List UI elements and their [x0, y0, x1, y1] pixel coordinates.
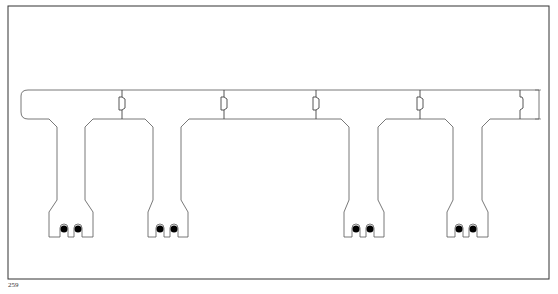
shear-key	[119, 90, 125, 119]
shear-key	[520, 90, 523, 119]
beam-1	[49, 119, 122, 237]
prestressing-strands	[61, 226, 477, 233]
strand	[61, 226, 68, 233]
beam-4	[420, 119, 539, 237]
strand	[367, 226, 374, 233]
strand	[75, 226, 82, 233]
dimension-tick	[535, 90, 541, 119]
strand	[171, 226, 178, 233]
shear-key-joints	[119, 90, 523, 119]
page-number: 259	[8, 281, 19, 289]
bridge-cross-section-drawing	[0, 0, 558, 294]
shear-key	[417, 90, 423, 119]
strand	[470, 226, 477, 233]
strand	[353, 226, 360, 233]
drawing-frame	[8, 6, 549, 279]
deck-slab	[21, 90, 541, 119]
strand	[157, 226, 164, 233]
shear-key	[313, 90, 319, 119]
shear-key	[221, 90, 227, 119]
beam-3	[316, 119, 420, 237]
strand	[456, 226, 463, 233]
beam-2	[122, 119, 224, 237]
